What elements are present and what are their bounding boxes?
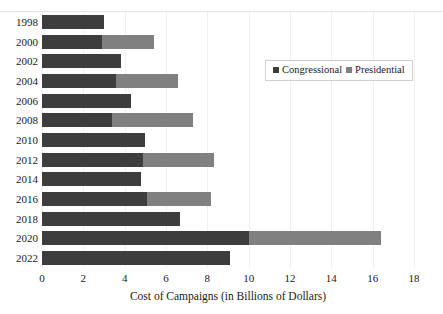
legend-swatch-congressional-icon <box>273 67 279 73</box>
bar-row <box>42 94 414 108</box>
legend-item-presidential: Presidential <box>346 64 405 76</box>
y-tick-label-2018: 2018 <box>4 212 38 226</box>
bar-segment-presidential-2020 <box>249 231 381 245</box>
bar-row <box>42 212 414 226</box>
bar-row <box>42 113 414 127</box>
bars-container <box>42 12 414 268</box>
x-tick-label-16: 16 <box>358 272 388 284</box>
y-tick-label-2010: 2010 <box>4 133 38 147</box>
y-tick-label-2006: 2006 <box>4 94 38 108</box>
bar-row <box>42 251 414 265</box>
bar-row <box>42 153 414 167</box>
bar-segment-presidential-2008 <box>112 113 193 127</box>
x-tick-label-0: 0 <box>27 272 57 284</box>
bar-segment-congressional-2020 <box>42 231 249 245</box>
bar-segment-congressional-2014 <box>42 172 141 186</box>
x-axis-title: Cost of Campaigns (in Billions of Dollar… <box>42 290 414 302</box>
bar-segment-presidential-2004 <box>116 74 178 88</box>
y-tick-label-2012: 2012 <box>4 153 38 167</box>
x-tick-label-14: 14 <box>316 272 346 284</box>
y-tick-label-1998: 1998 <box>4 15 38 29</box>
bar-segment-congressional-2010 <box>42 133 145 147</box>
bar-segment-congressional-2002 <box>42 54 121 68</box>
y-tick-label-2014: 2014 <box>4 172 38 186</box>
x-tick-label-8: 8 <box>192 272 222 284</box>
x-tick-label-2: 2 <box>68 272 98 284</box>
legend-label-congressional: Congressional <box>282 64 342 76</box>
bar-segment-congressional-2012 <box>42 153 143 167</box>
x-tick-label-6: 6 <box>151 272 181 284</box>
y-tick-label-2004: 2004 <box>4 74 38 88</box>
bar-segment-congressional-2000 <box>42 35 102 49</box>
bar-segment-congressional-2004 <box>42 74 116 88</box>
bar-row <box>42 172 414 186</box>
bar-segment-congressional-2022 <box>42 251 230 265</box>
bar-row <box>42 192 414 206</box>
bar-segment-presidential-2012 <box>143 153 213 167</box>
bar-segment-congressional-2008 <box>42 113 112 127</box>
y-tick-label-2002: 2002 <box>4 54 38 68</box>
x-tick-label-4: 4 <box>110 272 140 284</box>
legend-item-congressional: Congressional <box>273 64 342 76</box>
bar-row <box>42 133 414 147</box>
bar-segment-congressional-2018 <box>42 212 180 226</box>
x-tick-label-18: 18 <box>399 272 429 284</box>
bar-segment-congressional-2016 <box>42 192 147 206</box>
chart-legend: Congressional Presidential <box>265 60 413 81</box>
x-axis-tick-labels: 024681012141618 <box>42 0 414 20</box>
bar-segment-presidential-2016 <box>147 192 211 206</box>
y-axis-labels: 1998200020022004200620082010201220142016… <box>0 12 38 268</box>
bar-row <box>42 231 414 245</box>
bar-segment-presidential-2000 <box>102 35 154 49</box>
y-tick-label-2022: 2022 <box>4 251 38 265</box>
y-tick-label-2020: 2020 <box>4 231 38 245</box>
gridline-x-18 <box>414 12 415 268</box>
y-tick-label-2016: 2016 <box>4 192 38 206</box>
legend-label-presidential: Presidential <box>355 64 405 76</box>
y-tick-label-2000: 2000 <box>4 35 38 49</box>
x-tick-label-12: 12 <box>275 272 305 284</box>
bar-segment-congressional-2006 <box>42 94 131 108</box>
legend-swatch-presidential-icon <box>346 67 352 73</box>
x-tick-label-10: 10 <box>234 272 264 284</box>
bar-row <box>42 35 414 49</box>
campaign-cost-bar-chart: 1998200020022004200620082010201220142016… <box>0 0 443 314</box>
y-tick-label-2008: 2008 <box>4 113 38 127</box>
